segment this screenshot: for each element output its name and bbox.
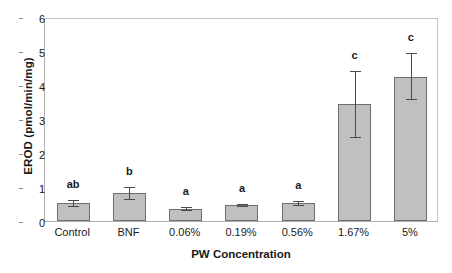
y-axis-tick-mark bbox=[19, 120, 23, 121]
error-bar-cap-top bbox=[237, 204, 248, 205]
error-bar-cap-top bbox=[181, 207, 192, 208]
error-bar-cap-bottom bbox=[293, 205, 304, 206]
error-bar-cap-top bbox=[350, 71, 361, 72]
bar-group: c bbox=[326, 19, 382, 221]
x-axis-tick-label: 0.06% bbox=[154, 226, 216, 238]
significance-label: c bbox=[335, 49, 375, 61]
error-bar-cap-top bbox=[293, 201, 304, 202]
error-bar-cap-bottom bbox=[406, 99, 417, 100]
significance-label: a bbox=[166, 185, 206, 197]
error-bar bbox=[411, 53, 412, 100]
plot-inner: 0123456abbaaacc bbox=[45, 19, 437, 221]
bar-group: a bbox=[214, 19, 270, 221]
bar-group: ab bbox=[45, 19, 101, 221]
x-axis-tick-label: BNF bbox=[97, 226, 159, 238]
y-axis-tick-label: 3 bbox=[23, 115, 45, 127]
y-axis-tick-label: 6 bbox=[23, 13, 45, 25]
y-axis-tick-mark bbox=[19, 188, 23, 189]
y-axis-tick-mark bbox=[19, 52, 23, 53]
error-bar-cap-bottom bbox=[68, 206, 79, 207]
x-axis-tick-label: 0.56% bbox=[266, 226, 328, 238]
significance-label: c bbox=[391, 31, 431, 43]
y-axis-tick-label: 5 bbox=[23, 47, 45, 59]
bar-group: c bbox=[383, 19, 439, 221]
error-bar bbox=[298, 201, 299, 206]
x-axis-title: PW Concentration bbox=[44, 248, 438, 260]
plot-area: 0123456abbaaacc bbox=[44, 18, 438, 222]
x-axis-tick-label: 1.67% bbox=[323, 226, 385, 238]
bar-group: b bbox=[101, 19, 157, 221]
y-axis-tick-mark bbox=[19, 222, 23, 223]
x-axis-tick-label: 0.19% bbox=[210, 226, 272, 238]
y-axis-tick-mark bbox=[19, 154, 23, 155]
bar bbox=[225, 205, 258, 221]
y-axis-tick-label: 1 bbox=[23, 183, 45, 195]
bar-group: a bbox=[270, 19, 326, 221]
erod-bar-chart-figure: EROD (pmol/min/mg) 0123456abbaaacc PW Co… bbox=[0, 0, 452, 273]
error-bar-cap-bottom bbox=[124, 199, 135, 200]
error-bar bbox=[129, 187, 130, 199]
y-axis-tick-label: 2 bbox=[23, 149, 45, 161]
significance-label: a bbox=[278, 179, 318, 191]
significance-label: b bbox=[109, 165, 149, 177]
error-bar bbox=[186, 207, 187, 210]
y-axis-tick-label: 4 bbox=[23, 81, 45, 93]
error-bar-cap-bottom bbox=[181, 210, 192, 211]
significance-label: ab bbox=[53, 178, 93, 190]
x-axis-tick-label: 5% bbox=[379, 226, 441, 238]
x-axis-tick-label: Control bbox=[41, 226, 103, 238]
error-bar-cap-top bbox=[406, 53, 417, 54]
bar-group: a bbox=[158, 19, 214, 221]
error-bar bbox=[242, 204, 243, 207]
significance-label: a bbox=[222, 182, 262, 194]
error-bar bbox=[73, 200, 74, 207]
error-bar-cap-top bbox=[68, 200, 79, 201]
error-bar bbox=[355, 71, 356, 138]
error-bar-cap-top bbox=[124, 187, 135, 188]
y-axis-tick-mark bbox=[19, 18, 23, 19]
error-bar-cap-bottom bbox=[237, 206, 248, 207]
error-bar-cap-bottom bbox=[350, 137, 361, 138]
bar bbox=[169, 209, 202, 221]
y-axis-tick-mark bbox=[19, 86, 23, 87]
